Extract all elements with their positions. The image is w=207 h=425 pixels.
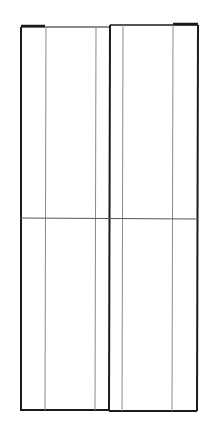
center-divider — [109, 25, 110, 411]
right-panel-stile-line — [122, 25, 123, 411]
mid-rail — [20, 218, 198, 219]
right-panel-stile-line — [172, 25, 173, 411]
elevation-drawing — [0, 0, 207, 425]
right-panel-right-edge — [197, 25, 198, 411]
right-panel — [109, 24, 198, 411]
